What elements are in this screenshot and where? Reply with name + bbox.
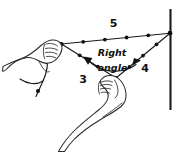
knot-group-tail (36, 60, 48, 93)
label-angle-word: angle (98, 62, 128, 73)
label-right-word: Right (98, 47, 127, 58)
label-hypotenuse: 5 (110, 17, 118, 30)
lower-hand (59, 76, 127, 152)
label-long-leg: 4 (141, 62, 149, 75)
label-short-leg: 3 (79, 73, 87, 86)
left-hand (3, 40, 63, 72)
rope-right-angle-figure: 5 3 4 Right angle (0, 0, 181, 155)
rope-segment-hypotenuse (62, 33, 171, 44)
diagram-canvas: 5 3 4 Right angle (0, 0, 181, 155)
